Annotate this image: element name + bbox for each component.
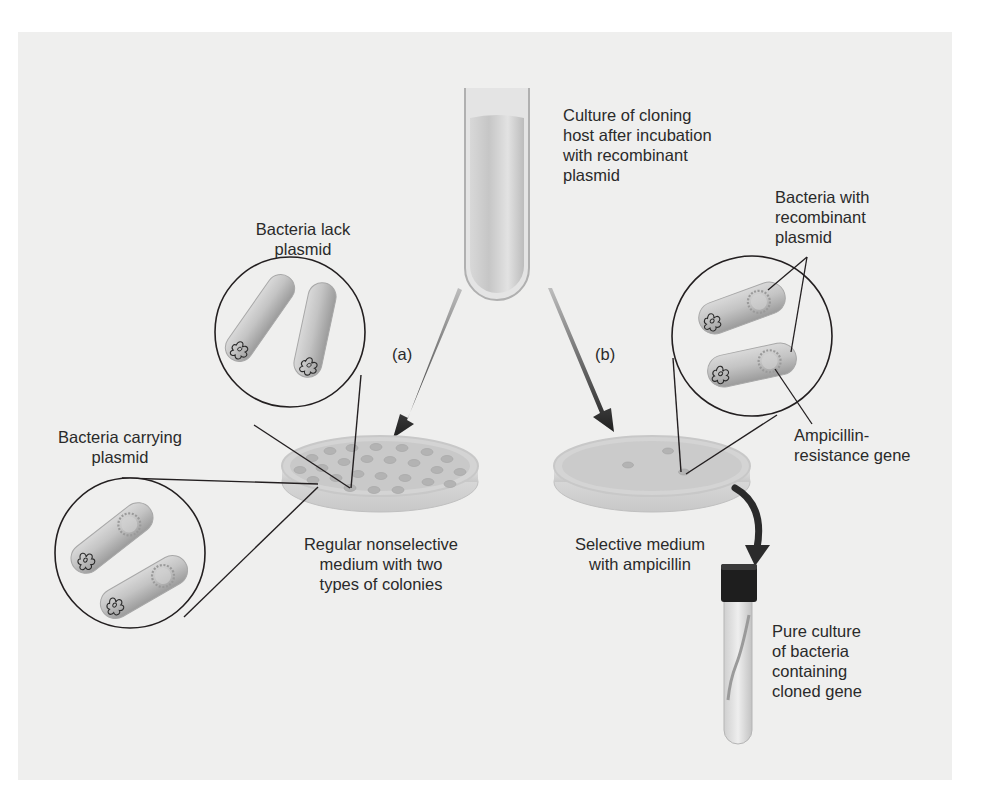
arrow-to-pure-culture-icon bbox=[735, 488, 770, 566]
label-nonselective-medium: Regular nonselective medium with two typ… bbox=[276, 534, 486, 594]
label-culture-tube: Culture of cloning host after incubation… bbox=[563, 105, 712, 185]
label-selective-medium: Selective medium with ampicillin bbox=[560, 534, 720, 574]
label-path-b: (b) bbox=[595, 344, 615, 364]
label-bacteria-lack-plasmid: Bacteria lack plasmid bbox=[228, 219, 378, 259]
petri-dish-selective bbox=[554, 436, 750, 512]
label-pure-culture: Pure culture of bacteria containing clon… bbox=[772, 621, 862, 701]
label-ampicillin-resistance-gene: Ampicillin- resistance gene bbox=[794, 425, 911, 465]
label-bacteria-carrying-plasmid: Bacteria carrying plasmid bbox=[40, 427, 200, 467]
culture-test-tube bbox=[465, 88, 529, 300]
petri-dish-nonselective bbox=[282, 436, 478, 512]
pure-culture-test-tube bbox=[721, 564, 757, 744]
label-path-a: (a) bbox=[392, 344, 412, 364]
label-bacteria-recombinant-plasmid: Bacteria with recombinant plasmid bbox=[775, 187, 869, 247]
